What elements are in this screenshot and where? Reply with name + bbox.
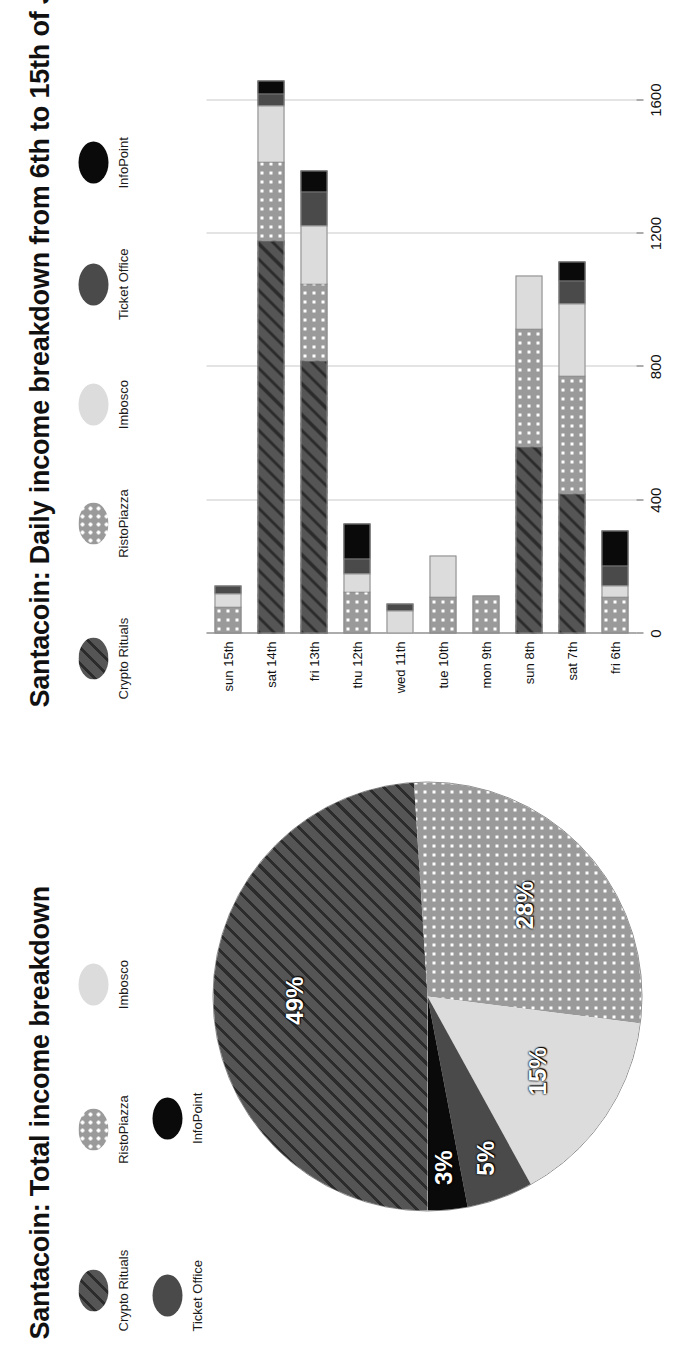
axis-tick xyxy=(636,499,643,500)
swatch-ristopiazza-icon xyxy=(78,502,108,544)
bar-segment-info xyxy=(300,170,327,192)
bar-stack-fri-6th xyxy=(601,530,628,633)
bar-segment-imbosco xyxy=(515,275,542,328)
swatch-infopoint-icon xyxy=(152,1097,182,1139)
bar-stack-mon-9th xyxy=(472,595,499,633)
bar-segment-ticket xyxy=(558,280,585,303)
category-label: sat 14th xyxy=(263,641,278,695)
axis-tick xyxy=(636,232,643,233)
axis-tick-label: 1600 xyxy=(646,83,663,116)
bar-segment-imbosco xyxy=(300,225,327,283)
legend-label: RistoPiazza xyxy=(115,489,130,558)
pie-legend-row-2: Ticket Office InfoPoint xyxy=(152,1092,204,1331)
legend-item-ristopiazza: RistoPiazza xyxy=(78,1095,130,1164)
bar-segment-crypto xyxy=(558,493,585,633)
bar-segment-crypto xyxy=(515,446,542,633)
bar-segment-risto xyxy=(558,375,585,493)
bar-segment-risto xyxy=(515,328,542,446)
bar-stack-sat-14th xyxy=(257,80,284,633)
swatch-imbosco-icon xyxy=(78,383,108,425)
swatch-ticket-office-icon xyxy=(152,1274,182,1316)
bar-chart-plot-area: 040080012001600fri 6thsat 7thsun 8thmon … xyxy=(206,33,636,633)
bar-segment-crypto xyxy=(257,240,284,633)
category-label: sun 8th xyxy=(521,641,536,695)
axis-tick xyxy=(636,99,643,100)
bar-segment-imbosco xyxy=(601,585,628,597)
category-label: fri 6th xyxy=(607,641,622,695)
legend-label: Crypto Rituals xyxy=(115,1249,130,1331)
axis-tick-label: 800 xyxy=(646,354,663,379)
bar-segment-imbosco xyxy=(558,303,585,375)
bar-segment-ticket xyxy=(386,603,413,610)
bar-segment-ticket xyxy=(601,565,628,585)
bar-segment-ticket xyxy=(343,558,370,573)
bar-stack-thu-12th xyxy=(343,523,370,633)
bar-segment-risto xyxy=(472,595,499,633)
axis-tick xyxy=(636,632,643,633)
bar-segment-ticket xyxy=(214,585,241,593)
bar-stack-sun-15th xyxy=(214,585,241,633)
bar-plot-inner: 040080012001600fri 6thsat 7thsun 8thmon … xyxy=(206,33,636,633)
legend-item-ticket-office: Ticket Office xyxy=(78,248,130,320)
axis-tick-label: 1200 xyxy=(646,216,663,249)
bar-stack-sat-7th xyxy=(558,261,585,633)
bar-stack-sun-8th xyxy=(515,275,542,633)
axis-tick-label: 400 xyxy=(646,487,663,512)
legend-item-crypto-rituals: Crypto Rituals xyxy=(78,617,130,699)
pie-legend-row-1: Crypto Rituals RistoPiazza Imbosco xyxy=(78,960,130,1331)
pie-circle xyxy=(212,781,642,1211)
legend-item-infopoint: InfoPoint xyxy=(78,137,130,188)
axis-tick xyxy=(636,365,643,366)
legend-label: Ticket Office xyxy=(189,1259,204,1331)
bar-segment-info xyxy=(601,530,628,565)
bar-segment-risto xyxy=(214,606,241,633)
legend-item-ristopiazza: RistoPiazza xyxy=(78,489,130,558)
legend-label: Imbosco xyxy=(115,380,130,429)
swatch-ticket-office-icon xyxy=(78,263,108,305)
legend-item-ticket-office: Ticket Office xyxy=(152,1259,204,1331)
bar-segment-imbosco xyxy=(257,105,284,162)
legend-label: RistoPiazza xyxy=(115,1095,130,1164)
bar-legend: Crypto Rituals RistoPiazza Imbosco Ticke… xyxy=(78,137,130,699)
bar-segment-risto xyxy=(343,591,370,633)
bar-segment-risto xyxy=(300,283,327,360)
legend-item-imbosco: Imbosco xyxy=(78,380,130,429)
axis-tick-label: 0 xyxy=(646,629,663,637)
bar-segment-ticket xyxy=(257,93,284,105)
swatch-ristopiazza-icon xyxy=(78,1108,108,1150)
total-income-panel: Santacoin: Total income breakdown Crypto… xyxy=(0,721,677,1361)
bar-stack-wed-11th xyxy=(386,603,413,633)
pie-slice-info xyxy=(213,782,641,1210)
category-label: mon 9th xyxy=(478,641,493,695)
legend-item-crypto-rituals: Crypto Rituals xyxy=(78,1249,130,1331)
bar-segment-crypto xyxy=(300,360,327,633)
legend-label: InfoPoint xyxy=(189,1092,204,1143)
category-label: sat 7th xyxy=(564,641,579,695)
bar-segment-imbosco xyxy=(343,573,370,591)
bar-segment-imbosco xyxy=(386,610,413,633)
category-label: wed 11th xyxy=(392,641,407,695)
bar-segment-info xyxy=(558,261,585,279)
legend-label: InfoPoint xyxy=(115,137,130,188)
bar-stack-tue-10th xyxy=(429,555,456,633)
category-label: thu 12th xyxy=(349,641,364,695)
legend-item-infopoint: InfoPoint xyxy=(152,1092,204,1143)
bar-segment-imbosco xyxy=(429,555,456,597)
bar-chart-title: Santacoin: Daily income breakdown from 6… xyxy=(24,0,55,707)
bar-stack-fri-13th xyxy=(300,170,327,633)
legend-item-imbosco: Imbosco xyxy=(78,960,130,1009)
category-label: sun 15th xyxy=(220,641,235,695)
bar-segment-risto xyxy=(429,596,456,633)
pie-chart: 49%28%15%5%3% xyxy=(212,781,642,1211)
figure-stage: Santacoin: Total income breakdown Crypto… xyxy=(0,0,677,1361)
bar-segment-imbosco xyxy=(214,593,241,606)
pie-slice-fill xyxy=(213,782,641,1210)
bar-segment-risto xyxy=(601,596,628,633)
legend-label: Imbosco xyxy=(115,960,130,1009)
bar-segment-info xyxy=(257,80,284,93)
bar-segment-info xyxy=(343,523,370,558)
swatch-infopoint-icon xyxy=(78,141,108,183)
category-label: tue 10th xyxy=(435,641,450,695)
legend-label: Ticket Office xyxy=(115,248,130,320)
category-label: fri 13th xyxy=(306,641,321,695)
